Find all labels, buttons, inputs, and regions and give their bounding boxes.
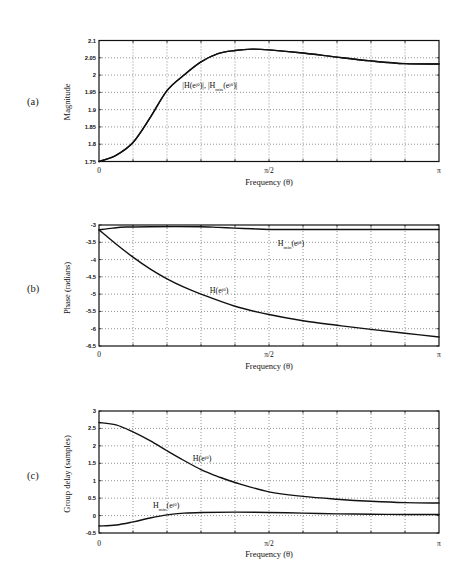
y-tick-label: -5.5 [86,308,97,314]
annotation-text: H(e [193,454,205,463]
x-axis-label-frequency: Frequency (θ) [245,549,293,559]
annotation-text: ) [301,239,304,248]
x-tick-label: π/2 [264,539,274,548]
x-tick-label: π/2 [264,350,274,359]
x-tick-label: π/2 [264,166,274,175]
panel-label-b: (b) [27,283,40,295]
y-tick-label: 2 [93,72,96,78]
y-tick-label: 1.8 [88,141,97,147]
y-tick-label: 2.05 [85,55,97,61]
curve-annotation: H(ejθ) [193,454,212,463]
curve-annotation: Hmin(ejθ) [153,501,180,512]
y-axis-label-group-delay: Group delay (samples) [62,435,72,513]
annotation-text: )| [233,81,237,90]
panel-label-c: (c) [27,470,39,482]
y-tick-label: 1.5 [88,460,97,466]
y-tick-label: -6 [91,326,97,332]
y-tick-label: -6.5 [86,343,97,349]
y-axis-label-phase: Phase (radians) [62,262,72,314]
y-tick-label: 1.95 [85,89,97,95]
annotation-text: |H(e [182,81,196,90]
annotation-text: ) [177,501,180,510]
y-tick-label: -3 [91,222,97,228]
y-tick-label: -4 [91,257,97,263]
x-tick-label: π [437,166,441,175]
y-tick-label: 1.75 [85,159,97,165]
y-tick-label: 0.5 [88,495,97,501]
panel-label-a: (a) [27,96,39,108]
curve-annotation: |H(ejθ)|, |Hmin(ejθ)| [182,81,237,92]
y-tick-label: 2.5 [88,425,97,431]
x-tick-label: π [437,350,441,359]
y-tick-label: 2.1 [88,38,97,44]
x-axis-label-frequency: Frequency (θ) [245,361,293,371]
x-tick-label: 0 [97,166,101,175]
y-tick-label: 1.85 [85,124,97,130]
y-axis-label-magnitude: Magnitude [62,83,72,120]
x-axis-label-frequency: Frequency (θ) [245,177,293,187]
y-tick-label: 1.9 [88,107,97,113]
y-tick-label: 0 [93,513,96,519]
x-tick-label: π [437,539,441,548]
y-tick-label: -5 [91,291,97,297]
x-tick-label: 0 [97,350,101,359]
x-tick-label: 0 [97,539,101,548]
y-tick-label: 2 [93,443,96,449]
curve-annotation: H(ejθ) [210,286,229,295]
y-tick-label: -0.5 [86,530,97,536]
annotation-text: H(e [210,286,222,295]
annotation-text: ) [226,286,229,295]
y-tick-label: -4.5 [86,274,97,280]
annotation-text: )|, |H [200,81,216,90]
figure: (a) Magnitude 1.751.81.851.91.9522.052.1… [0,0,464,583]
y-tick-label: -3.5 [86,239,97,245]
annotation-text: ) [209,454,212,463]
curve-annotation: Hmin(ejθ) [278,239,305,250]
